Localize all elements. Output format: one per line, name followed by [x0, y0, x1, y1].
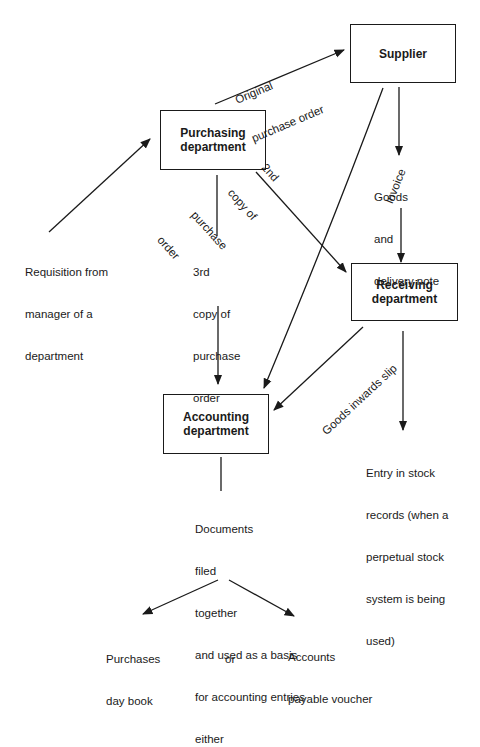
label-line: Original [233, 64, 310, 107]
text-purchases-day-book: Purchases day book [106, 624, 160, 736]
label-line: together [195, 606, 305, 620]
label-line: Entry in stock [366, 466, 448, 480]
label-line: either [195, 732, 305, 746]
label-line: department [25, 349, 108, 363]
label-line: and [374, 232, 439, 246]
label-line: 2nd [259, 161, 293, 197]
label-line: Documents [195, 522, 305, 536]
label-line: system is being [366, 592, 448, 606]
text-accounts-payable-voucher: Accounts payable voucher [288, 622, 372, 734]
label-goods-and-delivery-note: Goods and delivery note [374, 162, 439, 316]
text-or: or [225, 624, 238, 694]
label-line: purchase order [249, 102, 326, 145]
label-third-copy: 3rd copy of purchase order [193, 237, 240, 433]
node-supplier: Supplier [350, 24, 456, 83]
label-line: Requisition from [25, 265, 108, 279]
label-line: copy of [193, 307, 240, 321]
label-line: Goods [374, 190, 439, 204]
label-line: delivery note [374, 274, 439, 288]
label-line: Accounts [288, 650, 372, 664]
label-line: or [225, 652, 238, 666]
node-supplier-label: Supplier [379, 47, 427, 61]
edge-requisition-to-purchasing [49, 139, 150, 232]
node-purchasing-label-1: Purchasing [180, 126, 245, 140]
label-line: copy of [225, 186, 262, 225]
text-stock-entry: Entry in stock records (when a perpetual… [366, 438, 448, 676]
label-line: 3rd [193, 265, 240, 279]
label-line: records (when a [366, 508, 448, 522]
label-line: purchase [193, 349, 240, 363]
label-line: Purchases [106, 652, 160, 666]
label-line: day book [106, 694, 160, 708]
text-requisition: Requisition from manager of a department [25, 237, 108, 391]
label-line: perpetual stock [366, 550, 448, 564]
node-purchasing-label-2: department [180, 140, 245, 154]
label-line: filed [195, 564, 305, 578]
label-line: manager of a [25, 307, 108, 321]
label-line: order [193, 391, 240, 405]
label-line: payable voucher [288, 692, 372, 706]
label-line: used) [366, 634, 448, 648]
